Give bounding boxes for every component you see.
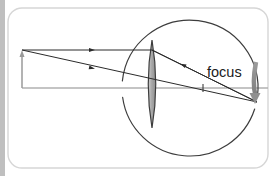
optics-ray-diagram: focus (0, 0, 275, 176)
image-arrow-shaft (254, 62, 256, 96)
focus-label: focus (207, 64, 242, 80)
diagram-canvas: focus (0, 0, 275, 176)
page-edge-bar (0, 0, 5, 176)
